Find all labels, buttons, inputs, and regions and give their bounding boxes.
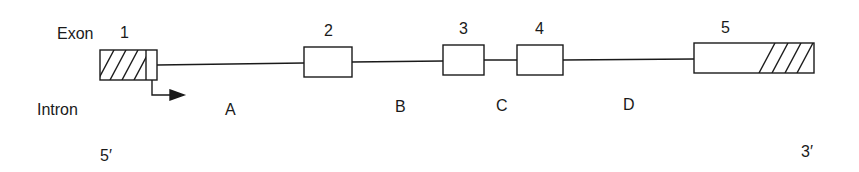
right-arrow-icon (152, 80, 184, 100)
exon-1-box (98, 50, 157, 80)
gene-schematic (0, 0, 859, 172)
exon-4-box (517, 45, 563, 75)
intron-b-line (352, 61, 443, 62)
intron-d-line (563, 59, 694, 60)
exon-5-box (694, 43, 814, 73)
exon-3-box (443, 45, 484, 75)
intron-a-line (157, 63, 304, 65)
exon-2-box (304, 47, 352, 77)
